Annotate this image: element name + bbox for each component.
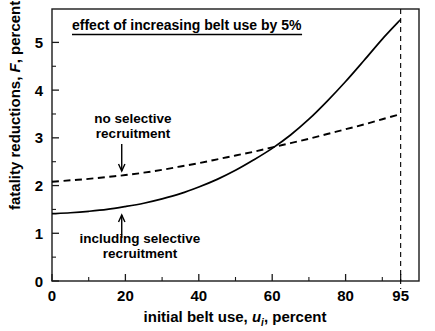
x-tick-label: 80 (337, 287, 354, 304)
y-tick-label: 0 (35, 273, 43, 290)
plot-title: effect of increasing belt use by 5% (72, 17, 302, 33)
x-tick-label: 40 (190, 287, 207, 304)
annotation-no-selective-recruitment: no selective recruitment (94, 111, 172, 141)
plot-title-group: effect of increasing belt use by 5% (72, 17, 302, 35)
x-tick-label: 0 (48, 287, 56, 304)
y-axis-title-post: , percent (6, 1, 23, 64)
y-axis-title: fatality reductions, F, percent (6, 1, 23, 210)
y-tick-label: 3 (35, 129, 43, 146)
x-tick-label: 95 (392, 287, 409, 304)
y-tick-label: 2 (35, 177, 43, 194)
annotation-including-selective-line1: including selective (80, 231, 201, 246)
y-axis-title-pre: fatality reductions, (6, 72, 23, 210)
x-tick-label: 60 (264, 287, 281, 304)
annotation-including-selective-line2: recruitment (103, 246, 178, 261)
y-axis-title-group: fatality reductions, F, percent (6, 1, 23, 210)
y-tick-label: 1 (35, 225, 43, 242)
x-axis-title-symbol: u (252, 308, 261, 325)
y-tick-label: 4 (35, 82, 44, 99)
x-axis-title-pre: initial belt use, (144, 308, 252, 325)
annotation-no-selective-line1: no selective (94, 111, 172, 126)
x-tick-label: 20 (117, 287, 134, 304)
x-axis-title-post: , percent (264, 308, 327, 325)
figure-container: 02040608095 012345 effect of increasing … (0, 0, 435, 331)
chart-canvas: 02040608095 012345 effect of increasing … (0, 0, 435, 331)
y-tick-label: 5 (35, 34, 43, 51)
annotation-no-selective-line2: recruitment (96, 126, 171, 141)
